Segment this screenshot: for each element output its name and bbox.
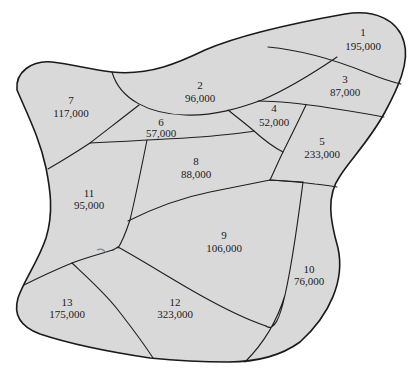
region-4-id: 4	[271, 102, 277, 114]
district-map: 1 195,000 2 96,000 3 87,000 4 52,000 5 2…	[0, 0, 417, 374]
region-7-population: 117,000	[53, 107, 89, 119]
region-3-population: 87,000	[330, 86, 361, 98]
region-9-id: 9	[221, 229, 227, 241]
region-13-id: 13	[62, 296, 74, 308]
region-8-population: 88,000	[181, 168, 212, 180]
region-9-population: 106,000	[206, 242, 242, 254]
region-1-id: 1	[360, 26, 366, 38]
region-1-population: 195,000	[345, 40, 381, 52]
region-10-population: 76,000	[294, 275, 325, 287]
region-13-population: 175,000	[49, 308, 85, 320]
region-11-id: 11	[84, 187, 95, 199]
region-8-id: 8	[193, 155, 199, 167]
region-3-id: 3	[342, 73, 348, 85]
region-6-population: 57,000	[146, 127, 177, 139]
region-5-population: 233,000	[304, 148, 340, 160]
region-12-population: 323,000	[157, 308, 193, 320]
region-4-population: 52,000	[259, 116, 290, 128]
region-10-id: 10	[304, 263, 316, 275]
region-11-population: 95,000	[74, 199, 105, 211]
region-2-population: 96,000	[185, 92, 216, 104]
region-2-id: 2	[197, 79, 203, 91]
region-12-id: 12	[170, 296, 181, 308]
region-7-id: 7	[68, 94, 74, 106]
region-5-id: 5	[319, 135, 325, 147]
